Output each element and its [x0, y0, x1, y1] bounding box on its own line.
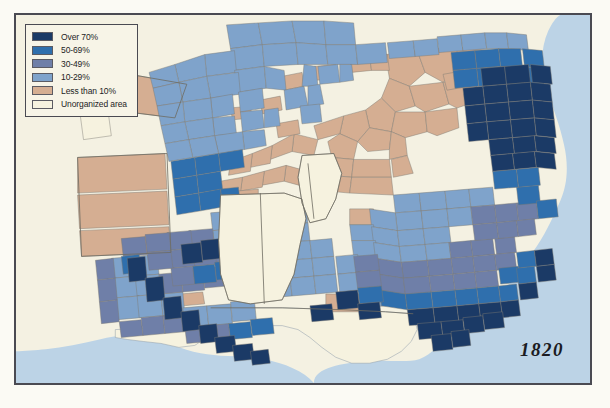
legend-label-10-29: 10-29% [61, 73, 90, 82]
map-year-label: 1820 [520, 339, 564, 361]
legend-swatch-50-69 [32, 46, 53, 55]
legend-item-over-70[interactable]: Over 70% [32, 30, 131, 44]
legend-label-unorganized: Unorganized area [61, 100, 127, 109]
legend-item-unorganized[interactable]: Unorganized area [32, 98, 131, 112]
legend-label-30-49: 30-49% [61, 60, 90, 69]
legend-swatch-10-29 [32, 73, 53, 82]
legend-swatch-less-than-10 [32, 86, 53, 95]
legend-swatch-unorganized [32, 100, 53, 109]
legend-item-10-29[interactable]: 10-29% [32, 71, 131, 85]
legend-item-50-69[interactable]: 50-69% [32, 44, 131, 58]
legend-label-less-than-10: Less than 10% [61, 87, 116, 96]
map-legend[interactable]: Over 70% 50-69% 30-49% 10-29% Less than … [25, 24, 138, 117]
legend-item-30-49[interactable]: 30-49% [32, 57, 131, 71]
legend-label-over-70: Over 70% [61, 33, 98, 42]
map-page: Over 70% 50-69% 30-49% 10-29% Less than … [0, 0, 610, 408]
map-frame: Over 70% 50-69% 30-49% 10-29% Less than … [14, 13, 592, 385]
legend-swatch-30-49 [32, 59, 53, 68]
legend-item-less-than-10[interactable]: Less than 10% [32, 84, 131, 98]
legend-swatch-over-70 [32, 32, 53, 41]
legend-label-50-69: 50-69% [61, 46, 90, 55]
